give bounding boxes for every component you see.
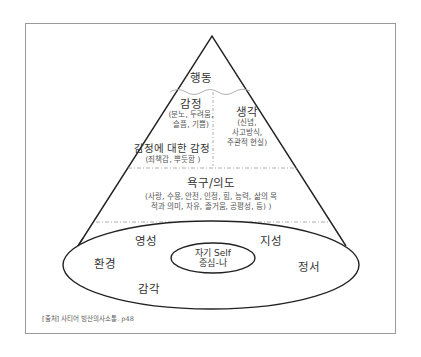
behavior-label: 행동 bbox=[190, 69, 212, 85]
feelings-detail-2: 슬픔, 기쁨) bbox=[152, 119, 230, 130]
core-self-line1: 자기 Self bbox=[183, 248, 243, 258]
intellect-label: 지성 bbox=[260, 232, 282, 248]
waterline-wave bbox=[170, 89, 250, 94]
yearnings-detail-2: 적과 의미, 자유, 즐거움, 공평성, 등) ) bbox=[108, 201, 314, 212]
feelings-about-feelings-label: 감정에 대한 감정 bbox=[132, 140, 212, 155]
spirituality-label: 영성 bbox=[135, 232, 157, 248]
core-self-line2: 중심-나 bbox=[183, 258, 243, 268]
senses-label: 감각 bbox=[138, 280, 160, 296]
feelings-about-feelings-detail: (죄책감, 뿌듯함 ) bbox=[140, 154, 206, 165]
yearnings-label: 욕구/의도 bbox=[180, 174, 242, 190]
environment-label: 환경 bbox=[94, 255, 116, 271]
source-caption: [출처] 사티어 빙산의사소통. p48 bbox=[42, 313, 134, 323]
emotion-label: 정서 bbox=[298, 258, 320, 274]
thoughts-detail-3: 주관적 현실) bbox=[214, 137, 280, 148]
pyramid-outline bbox=[78, 36, 346, 246]
